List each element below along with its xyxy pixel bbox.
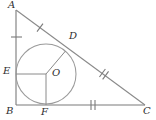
label-B: B <box>6 106 13 116</box>
segment-AC <box>16 10 145 105</box>
geometry-figure: A B C D E F O <box>0 0 156 120</box>
label-F: F <box>41 107 48 117</box>
label-E: E <box>3 66 10 76</box>
radii-group <box>16 51 66 105</box>
label-O: O <box>52 68 60 78</box>
label-A: A <box>8 0 15 10</box>
tick-mark-ad <box>37 24 43 32</box>
label-D: D <box>69 31 77 41</box>
tick-ad-stroke-1 <box>37 24 43 32</box>
label-C: C <box>143 106 151 116</box>
geometry-canvas <box>0 0 156 120</box>
triangle-outline <box>16 10 145 105</box>
